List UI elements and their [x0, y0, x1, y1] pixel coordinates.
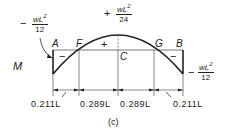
right-moment-denominator: 12: [198, 73, 214, 82]
figure-caption: (c): [108, 117, 119, 127]
leader-dim-right: [166, 92, 171, 97]
dimension-af: 0.211L: [31, 100, 61, 109]
midspan-moment-denominator: 24: [116, 15, 132, 24]
midspan-moment-sign: +: [104, 8, 110, 19]
left-moment-exp: 2: [43, 13, 46, 19]
dimension-gb: 0.211L: [173, 100, 203, 109]
leader-left-moment: [40, 38, 52, 58]
left-moment-sign: −: [20, 18, 26, 29]
right-moment-sign: −: [188, 67, 194, 78]
point-label-b: B: [176, 39, 183, 49]
point-label-g: G: [155, 39, 163, 49]
dimension-cg: 0.289L: [120, 100, 151, 109]
midspan-moment-exp: 2: [127, 3, 130, 9]
left-moment-denominator: 12: [32, 25, 48, 34]
axis-label-m: M: [13, 61, 22, 71]
midspan-moment-numerator: wL: [117, 5, 127, 14]
midspan-moment-fraction: wL2 24: [116, 2, 132, 24]
left-moment-fraction: wL2 12: [32, 12, 48, 34]
right-moment-exp: 2: [209, 61, 212, 67]
leader-dim-left: [62, 92, 66, 97]
point-label-f: F: [76, 39, 82, 49]
region-sign-right: −: [170, 51, 176, 62]
left-moment-numerator: wL: [33, 15, 43, 24]
right-moment-numerator: wL: [199, 63, 209, 72]
point-label-c: C: [120, 52, 127, 62]
region-sign-left: −: [59, 51, 65, 62]
right-moment-fraction: wL2 12: [198, 60, 214, 82]
region-sign-middle: +: [101, 39, 107, 50]
dimension-fc: 0.289L: [80, 100, 111, 109]
point-label-a: A: [52, 39, 59, 49]
